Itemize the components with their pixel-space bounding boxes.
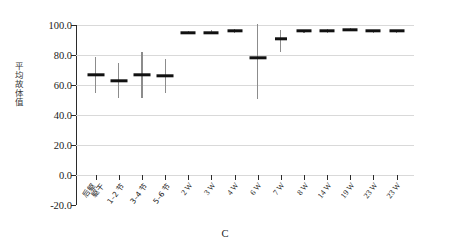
x-tick-label: 6 W (248, 181, 263, 197)
data-point-marker (343, 28, 358, 31)
gridline (76, 175, 414, 176)
x-axis-tick (350, 175, 351, 180)
chart-container: 平均故体值 100.080.060.040.020.00.0-20.0 后躯躯干… (0, 0, 450, 248)
gridline (76, 55, 414, 56)
x-axis-tick-labels: 后躯躯干1–2 节3–4 节5–6 节2 W3 W4 W6 W7 W8 W14 … (0, 0, 450, 248)
x-axis-title: C (0, 228, 450, 239)
x-tick-label: 3 W (202, 181, 217, 197)
data-point-marker (389, 29, 404, 32)
x-axis-tick (165, 175, 166, 180)
gridline (76, 85, 414, 86)
x-axis-tick (327, 175, 328, 180)
x-axis-tick (119, 175, 120, 180)
x-tick-label: 19 W (339, 181, 357, 200)
data-point-marker (320, 29, 335, 32)
data-point-marker (227, 29, 242, 32)
data-point-marker (133, 73, 150, 76)
x-axis-tick (235, 175, 236, 180)
data-point-marker (366, 29, 381, 32)
x-tick-label: 7 W (272, 181, 287, 197)
error-bar-whisker (257, 24, 258, 98)
x-axis-tick (258, 175, 259, 180)
x-tick-label: 2 W (179, 181, 194, 197)
x-axis-tick (211, 175, 212, 180)
x-tick-label: 8 W (295, 181, 310, 197)
data-point-marker (157, 74, 174, 77)
x-axis-tick (373, 175, 374, 180)
x-tick-label: 5–6 节 (150, 181, 173, 206)
x-tick-label: 14 W (315, 181, 333, 200)
x-axis-tick (142, 175, 143, 180)
x-tick-label: 4 W (225, 181, 240, 197)
x-tick-label: 23 W (385, 181, 403, 200)
x-axis-tick (188, 175, 189, 180)
data-point-marker (249, 56, 266, 59)
data-point-marker (110, 79, 127, 82)
x-axis-tick (281, 175, 282, 180)
x-axis-tick (304, 175, 305, 180)
x-tick-label: 23 W (362, 181, 380, 200)
y-axis-tick (71, 205, 76, 206)
y-axis-tick (71, 25, 76, 26)
gridline (76, 145, 414, 146)
x-axis-tick (397, 175, 398, 180)
data-point-marker (204, 31, 219, 34)
error-bar-whisker (280, 30, 281, 53)
data-point-marker (297, 29, 312, 32)
data-point-marker (181, 31, 196, 34)
data-point-marker (87, 73, 104, 76)
data-point-marker (275, 37, 287, 40)
gridline (76, 115, 414, 116)
x-axis-tick (96, 175, 97, 180)
x-tick-label: 1–2 节 (104, 181, 127, 206)
x-tick-label: 3–4 节 (127, 181, 150, 206)
